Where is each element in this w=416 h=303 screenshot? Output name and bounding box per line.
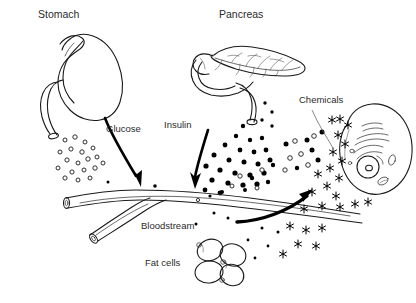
insulin-particle <box>220 190 224 194</box>
glucose-particle <box>91 146 95 150</box>
insulin-particle <box>305 138 310 143</box>
canvas-background <box>0 0 416 303</box>
glucose-particle <box>58 150 62 154</box>
insulin-particle <box>250 176 254 180</box>
glucose-particle <box>255 186 259 190</box>
glucose-particle <box>283 168 287 172</box>
insulin-particle <box>295 166 299 170</box>
glucose-particle <box>299 152 304 157</box>
insulin-particle <box>263 101 266 104</box>
insulin-particle <box>217 167 222 172</box>
glucose-particle <box>69 147 73 151</box>
glucose-particle <box>306 163 311 168</box>
insulin-particle <box>268 158 273 163</box>
glucose-particle <box>293 139 298 144</box>
insulin-particle <box>240 182 245 187</box>
insulin-particle <box>195 223 198 226</box>
glucose-particle <box>196 198 199 201</box>
insulin-particle <box>267 245 270 248</box>
insulin-particle <box>254 257 257 260</box>
insulin-particle <box>271 163 275 167</box>
label-glucose: Glucose <box>106 123 141 134</box>
insulin-particle <box>209 177 214 182</box>
glucose-particle <box>65 158 69 162</box>
insulin-particle <box>234 134 238 138</box>
insulin-particle <box>242 160 247 165</box>
insulin-particle <box>238 148 243 153</box>
glucose-particle <box>238 174 242 178</box>
insulin-particle <box>270 110 273 113</box>
label-fat-cells: Fat cells <box>145 257 181 268</box>
glucose-particle <box>56 166 60 170</box>
insulin-particle <box>227 217 230 220</box>
glucose-particle <box>101 161 105 165</box>
insulin-particle <box>316 158 321 163</box>
label-stomach: Stomach <box>38 8 80 20</box>
insulin-particle <box>310 148 315 153</box>
insulin-particle <box>232 170 237 175</box>
insulin-particle <box>203 163 208 168</box>
pathway-diagram: Stomach Pancreas Glucose Insulin Chemica… <box>0 0 416 303</box>
insulin-particle <box>264 148 269 153</box>
insulin-particle <box>252 150 257 155</box>
insulin-particle <box>270 124 273 127</box>
glucose-particle <box>88 176 92 180</box>
glucose-particle <box>95 155 99 159</box>
insulin-particle <box>284 142 289 147</box>
glucose-particle <box>230 184 234 188</box>
glucose-particle <box>86 157 90 161</box>
glucose-particle <box>73 135 77 139</box>
insulin-particle <box>241 124 245 128</box>
insulin-particle <box>260 118 263 121</box>
insulin-particle <box>243 188 247 192</box>
insulin-particle <box>256 162 261 167</box>
insulin-particle <box>247 239 250 242</box>
glucose-particle <box>76 178 80 182</box>
insulin-particle <box>107 181 110 184</box>
diagram-canvas: Stomach Pancreas Glucose Insulin Chemica… <box>0 0 416 303</box>
insulin-particle <box>203 188 208 193</box>
glucose-particle <box>260 168 264 172</box>
insulin-particle <box>277 231 280 234</box>
insulin-particle <box>223 143 228 148</box>
glucose-particle <box>70 170 74 174</box>
label-bloodstream: Bloodstream <box>141 220 194 231</box>
insulin-particle <box>266 180 270 184</box>
insulin-particle <box>213 212 216 215</box>
glucose-particle <box>312 134 317 139</box>
glucose-particle <box>63 138 67 142</box>
label-pancreas: Pancreas <box>219 8 263 20</box>
glucose-particle <box>93 166 97 170</box>
insulin-particle <box>225 180 230 185</box>
glucose-particle <box>288 156 293 161</box>
insulin-particle <box>208 194 211 197</box>
insulin-particle <box>153 184 157 188</box>
glucose-particle <box>63 176 67 180</box>
insulin-particle <box>227 158 232 163</box>
insulin-particle <box>261 227 264 230</box>
glucose-particle <box>83 140 87 144</box>
glucose-particle <box>82 168 86 172</box>
insulin-particle <box>248 138 252 142</box>
glucose-particle <box>76 161 80 165</box>
insulin-particle <box>260 136 264 140</box>
insulin-particle <box>212 153 217 158</box>
glucose-particle <box>80 150 84 154</box>
label-insulin: Insulin <box>164 119 191 130</box>
label-chemicals: Chemicals <box>299 94 344 105</box>
